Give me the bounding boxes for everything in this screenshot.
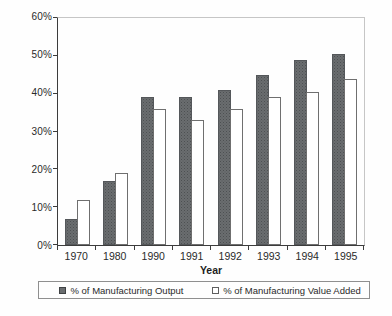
bar-group-1980 [96, 18, 134, 245]
bar-group-1992 [211, 18, 249, 245]
bar-chart-figure: 0%10%20%30%40%50%60% 1970198019901991199… [0, 0, 392, 316]
bar-group-1990 [135, 18, 173, 245]
y-tick-mark [53, 244, 57, 245]
y-tick-label: 0% [14, 240, 52, 252]
legend-swatch-white-icon [212, 287, 219, 294]
legend-item: % of Manufacturing Output [39, 285, 204, 296]
x-tick-label-1993: 1993 [250, 250, 289, 262]
bar-white-1994 [306, 92, 319, 245]
x-tick-label-1992: 1992 [211, 250, 250, 262]
bar-groups [58, 18, 364, 245]
y-tick-label: 10% [14, 202, 52, 214]
x-axis-title: Year [57, 264, 365, 276]
x-tick-label-1994: 1994 [288, 250, 327, 262]
bar-white-1995 [344, 79, 357, 245]
legend-swatch-dark-icon [59, 287, 66, 294]
bar-white-1980 [115, 173, 128, 245]
bar-group-1993 [249, 18, 287, 245]
plot-area [57, 17, 365, 246]
y-tick-label: 40% [14, 87, 52, 99]
y-tick-mark [53, 131, 57, 132]
bar-white-1990 [153, 109, 166, 245]
bar-white-1992 [230, 109, 243, 245]
y-tick-label: 60% [14, 11, 52, 23]
y-tick-mark [53, 55, 57, 56]
bar-group-1970 [58, 18, 96, 245]
y-tick-mark [53, 17, 57, 18]
y-tick-mark [53, 168, 57, 169]
x-tick-label-1980: 1980 [96, 250, 135, 262]
y-axis: 0%10%20%30%40%50%60% [14, 0, 52, 260]
bar-group-1994 [288, 18, 326, 245]
x-tick-label-1995: 1995 [327, 250, 366, 262]
legend: % of Manufacturing Output% of Manufactur… [38, 281, 370, 299]
x-tick-label-1970: 1970 [57, 250, 96, 262]
y-tick-mark [53, 206, 57, 207]
x-tick-label-1991: 1991 [173, 250, 212, 262]
x-axis: 19701980199019911992199319941995 [57, 250, 365, 262]
legend-label: % of Manufacturing Value Added [223, 285, 361, 296]
bar-white-1991 [191, 120, 204, 245]
y-tick-label: 20% [14, 164, 52, 176]
bar-white-1970 [77, 200, 90, 245]
y-tick-mark [53, 93, 57, 94]
bar-white-1993 [268, 97, 281, 245]
legend-label: % of Manufacturing Output [70, 285, 183, 296]
y-tick-label: 30% [14, 126, 52, 138]
y-tick-label: 50% [14, 49, 52, 61]
x-tick-label-1990: 1990 [134, 250, 173, 262]
legend-item: % of Manufacturing Value Added [204, 285, 369, 296]
bar-group-1995 [326, 18, 364, 245]
bar-group-1991 [173, 18, 211, 245]
